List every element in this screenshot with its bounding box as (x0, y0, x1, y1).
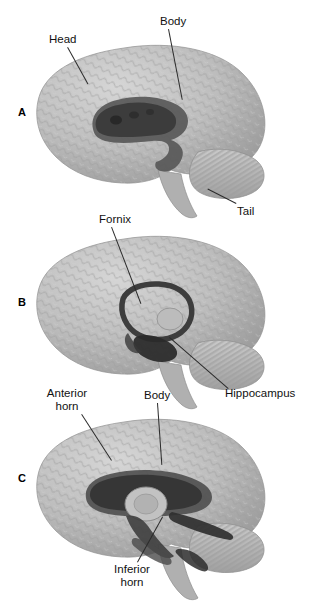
label-hippocampus: Hippocampus (225, 387, 295, 400)
label-inferior-horn: Inferior horn (100, 563, 164, 589)
anatomy-figure: A (0, 0, 315, 614)
panel-letter-a: A (18, 107, 26, 118)
panel-c: C (0, 400, 315, 614)
brain-illustration-a (30, 42, 280, 220)
label-fornix: Fornix (99, 213, 131, 226)
anterior-horn-line1: Anterior (47, 387, 87, 399)
panel-b: B (0, 205, 315, 395)
panel-letter-c: C (18, 473, 26, 484)
inferior-horn-line2: horn (120, 576, 143, 588)
label-body-c: Body (144, 389, 170, 402)
label-anterior-horn: Anterior horn (35, 387, 99, 413)
brain-illustration-b (30, 233, 280, 411)
inferior-horn-line1: Inferior (114, 563, 150, 575)
panel-a: A (0, 0, 315, 215)
anterior-horn-line2: horn (55, 400, 78, 412)
panel-letter-b: B (18, 297, 26, 308)
label-head: Head (49, 33, 77, 46)
label-body-a: Body (160, 15, 186, 28)
